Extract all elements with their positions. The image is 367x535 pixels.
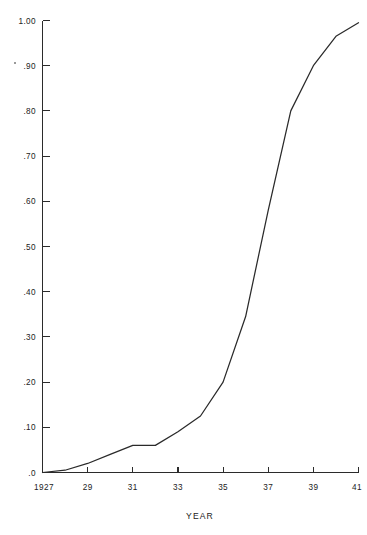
chart-figure: 1.00 .90 .80 .70 .60 .50 .40 .30 .20 .10… (0, 0, 367, 535)
x-axis-tick-labels: 1927 29 31 33 35 37 39 41 (34, 483, 362, 492)
x-tick-label: 29 (83, 483, 93, 492)
y-tick-label: .90 (23, 62, 36, 71)
y-tick-label: .40 (23, 288, 36, 297)
y-tick-label: .10 (23, 423, 36, 432)
y-tick-label: 1.00 (18, 17, 36, 26)
y-axis-ticks (43, 21, 50, 473)
x-tick-label: 35 (218, 483, 228, 492)
x-tick-label: 31 (128, 483, 138, 492)
y-tick-label: .80 (23, 107, 36, 116)
x-tick-label: 39 (308, 483, 318, 492)
x-tick-label: 37 (263, 483, 273, 492)
y-tick-label: .60 (23, 197, 36, 206)
y-axis-tick-labels: 1.00 .90 .80 .70 .60 .50 .40 .30 .20 .10… (18, 17, 36, 478)
x-tick-label: 1927 (34, 483, 54, 492)
y-tick-label: .0 (28, 469, 36, 478)
data-series-line (43, 23, 359, 473)
y-tick-label: .70 (23, 152, 36, 161)
x-axis-title: YEAR (186, 511, 214, 521)
print-speck (14, 62, 16, 64)
x-tick-label: 33 (173, 483, 183, 492)
axis-lines (43, 21, 359, 473)
x-axis-ticks (43, 467, 359, 473)
y-tick-label: .50 (23, 243, 36, 252)
line-chart-canvas: 1.00 .90 .80 .70 .60 .50 .40 .30 .20 .10… (0, 0, 367, 535)
x-tick-label: 41 (352, 483, 362, 492)
y-tick-label: .30 (23, 333, 36, 342)
y-tick-label: .20 (23, 378, 36, 387)
